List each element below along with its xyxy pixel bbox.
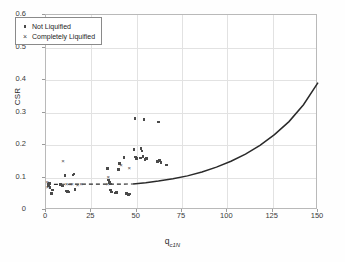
data-point-square (134, 117, 137, 120)
legend-label: Not Liquified (30, 23, 71, 30)
data-point-square (106, 167, 109, 170)
data-point-square (115, 191, 118, 194)
data-point-square (117, 168, 120, 171)
figure: CSR qc1N 00.10.20.30.40.50.6 02550751001… (0, 0, 345, 262)
data-point-square (64, 174, 67, 177)
data-point-square (165, 164, 168, 167)
data-point-square (160, 161, 163, 164)
data-point-cross: × (119, 162, 123, 168)
x-tick-label: 25 (75, 212, 105, 220)
data-point-square (51, 189, 54, 192)
data-point-cross: × (79, 181, 83, 187)
data-point-square (109, 183, 112, 186)
data-point-square (74, 188, 77, 191)
data-point-square (73, 173, 76, 176)
y-tick-label: 0 (0, 205, 26, 213)
data-point-square (143, 118, 146, 121)
y-tick-label: 0.1 (0, 173, 26, 181)
y-tick-label: 0.2 (0, 140, 26, 148)
data-point-square (135, 157, 138, 160)
data-point-square (141, 150, 144, 153)
y-tick-label: 0.4 (0, 75, 26, 83)
data-point-square (61, 185, 64, 188)
data-point-square (110, 191, 113, 194)
data-point-square (142, 155, 145, 158)
data-point-cross: × (70, 181, 74, 187)
data-point-cross: × (46, 184, 50, 190)
cross-marker-icon: × (20, 33, 30, 40)
data-point-square (133, 148, 136, 151)
data-point-square (145, 157, 148, 160)
x-axis-label: qc1N (0, 236, 345, 248)
legend: Not Liquified × Completely Liquified (15, 17, 102, 45)
x-tick-label: 100 (211, 212, 241, 220)
data-point-square (67, 191, 70, 194)
legend-label: Completely Liquified (30, 33, 95, 40)
data-point-square (157, 121, 160, 124)
data-point-cross: × (107, 174, 111, 180)
data-point-cross: × (127, 165, 131, 171)
x-axis-label-subscript: c1N (170, 242, 181, 248)
x-tick-label: 50 (121, 212, 151, 220)
data-point-square (128, 193, 131, 196)
square-marker-icon (20, 23, 30, 30)
x-tick-label: 150 (302, 212, 332, 220)
x-tick-label: 0 (30, 212, 60, 220)
x-tick-label: 75 (166, 212, 196, 220)
legend-item: × Completely Liquified (20, 31, 95, 41)
x-tick-label: 125 (257, 212, 287, 220)
data-point-square (123, 156, 126, 159)
data-point-cross: × (106, 181, 110, 187)
data-point-square (50, 192, 53, 195)
data-point-cross: × (61, 158, 65, 164)
legend-item: Not Liquified (20, 21, 95, 31)
y-tick-label: 0.3 (0, 108, 26, 116)
